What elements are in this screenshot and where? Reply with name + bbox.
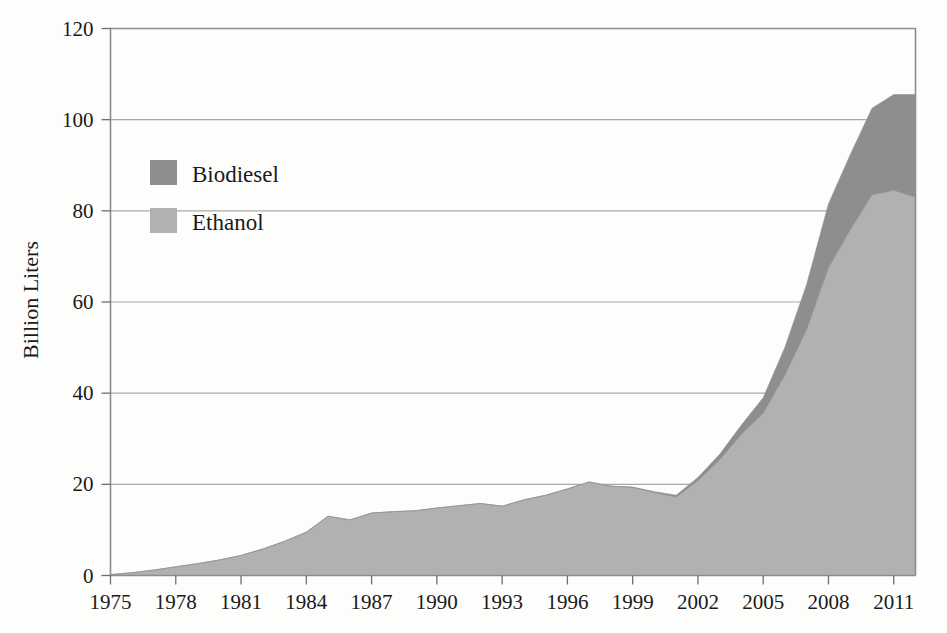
y-tick-label-0: 0: [83, 564, 94, 588]
chart-page: 020406080100120 197519781981198419871990…: [0, 0, 947, 633]
legend-label-ethanol: Ethanol: [192, 210, 264, 235]
x-tick-label-1975: 1975: [90, 590, 132, 614]
x-tick-label-2008: 2008: [807, 590, 849, 614]
y-tick-label-60: 60: [73, 290, 94, 314]
x-tick-label-1981: 1981: [220, 590, 262, 614]
x-tick-label-2002: 2002: [677, 590, 719, 614]
y-axis-title-group: Billion Liters: [18, 241, 43, 359]
y-tick-label-80: 80: [73, 199, 94, 223]
x-tick-label-2005: 2005: [742, 590, 784, 614]
legend-swatch-biodiesel: [150, 160, 177, 185]
x-tick-label-1990: 1990: [416, 590, 458, 614]
x-tick-label-1984: 1984: [285, 590, 328, 614]
y-tick-label-120: 120: [62, 17, 94, 41]
x-tick-label-1999: 1999: [612, 590, 654, 614]
y-tick-label-20: 20: [73, 472, 94, 496]
x-tick-label-2011: 2011: [873, 590, 914, 614]
x-tick-label-1996: 1996: [546, 590, 588, 614]
y-tick-label-40: 40: [73, 381, 94, 405]
x-tick-label-1987: 1987: [351, 590, 393, 614]
y-tick-label-100: 100: [62, 108, 94, 132]
legend-swatch-ethanol: [150, 208, 177, 233]
y-axis-title: Billion Liters: [18, 241, 43, 359]
legend-label-biodiesel: Biodiesel: [192, 162, 279, 187]
x-tick-label-1978: 1978: [155, 590, 197, 614]
x-tick-label-1993: 1993: [481, 590, 523, 614]
stacked-area-chart: 020406080100120 197519781981198419871990…: [0, 0, 947, 633]
